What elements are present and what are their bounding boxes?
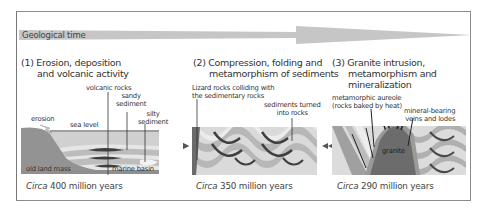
label-erosion: erosion: [31, 116, 54, 124]
caption-2-circa: Circa: [196, 181, 217, 191]
caption-2-years: 350 million years: [217, 181, 292, 191]
label-silty-sediment: silty sediment: [138, 111, 168, 126]
label-veins-line2: veins and lodes: [405, 115, 455, 123]
label-aureole-line2: (rocks baked by heat): [332, 102, 402, 110]
label-old-land-mass: old land mass: [26, 166, 71, 174]
label-lizard-rocks: Lizard rocks colliding with the sediment…: [192, 85, 274, 100]
label-sea-level: sea level: [70, 122, 98, 130]
stage-2-cross-section: [192, 118, 342, 175]
label-lizard-line2: the sedimentary rocks: [192, 92, 264, 100]
compression-arrow-left: [183, 143, 189, 149]
label-marine-basin: marine basin: [112, 166, 154, 174]
label-sediments-line2: into rocks: [277, 109, 308, 117]
panel-3-caption: Circa 290 million years: [337, 181, 434, 191]
label-sandy-line2: sediment: [116, 100, 146, 108]
caption-3-years: 290 million years: [358, 181, 433, 191]
panel-2-caption: Circa 350 million years: [196, 181, 293, 191]
label-granite: granite: [382, 148, 405, 156]
label-sandy-sediment: sandy sediment: [116, 93, 146, 108]
panel-1-caption: Circa 400 million years: [26, 181, 123, 191]
caption-1-years: 400 million years: [47, 181, 122, 191]
label-metamorphic-aureole: metamorphic aureole (rocks baked by heat…: [332, 95, 402, 110]
label-sediments-turned: sediments turned into rocks: [264, 102, 321, 117]
caption-3-circa: Circa: [337, 181, 358, 191]
label-mineral-veins: mineral-bearing veins and lodes: [404, 108, 455, 123]
caption-1-circa: Circa: [26, 181, 47, 191]
label-silty-line2: sediment: [138, 118, 168, 126]
